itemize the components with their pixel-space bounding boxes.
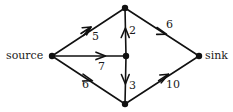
edge-capacity-source-bottom: 6: [82, 79, 89, 90]
node-top[interactable]: [122, 5, 128, 11]
edge-capacity-top-sink: 6: [166, 19, 173, 30]
node-label-sink: sink: [205, 50, 228, 61]
edge-capacity-middle-top: 2: [129, 25, 136, 36]
edge-capacity-middle-bottom: 3: [129, 80, 136, 91]
arrowhead-bottom-sink-barb: [160, 74, 169, 75]
node-source[interactable]: [49, 53, 55, 59]
edge-line-middle-bottom: [125, 56, 126, 104]
edge-capacity-bottom-sink: 10: [166, 79, 180, 90]
node-middle[interactable]: [123, 53, 129, 59]
node-sink[interactable]: [196, 53, 202, 59]
node-bottom[interactable]: [122, 101, 128, 107]
edge-capacity-source-top: 5: [92, 31, 99, 42]
flow-network-figure: source sink 5 7 6 2 3 6 10: [0, 0, 233, 112]
edge-line-middle-top: [125, 8, 126, 56]
edge-capacity-source-middle: 7: [98, 61, 105, 72]
edge-line-bottom-sink: [125, 56, 199, 104]
node-label-source: source: [6, 50, 43, 61]
